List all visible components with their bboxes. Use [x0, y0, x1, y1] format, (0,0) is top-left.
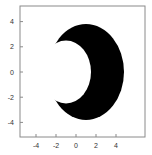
y-tick-label: 2 [10, 43, 14, 50]
y-tick-label: -2 [8, 94, 14, 101]
x-tick-label: 4 [114, 142, 118, 149]
y-tick-label: -4 [8, 119, 14, 126]
x-tick-label: -4 [33, 142, 39, 149]
inner-hole [41, 41, 91, 104]
x-tick-label: 0 [74, 142, 78, 149]
y-tick-label: 0 [10, 69, 14, 76]
y-tick-label: 4 [10, 18, 14, 25]
x-tick-label: -2 [53, 142, 59, 149]
x-tick-label: 2 [94, 142, 98, 149]
region-plot: -4-2024 420-2-4 [0, 0, 152, 155]
